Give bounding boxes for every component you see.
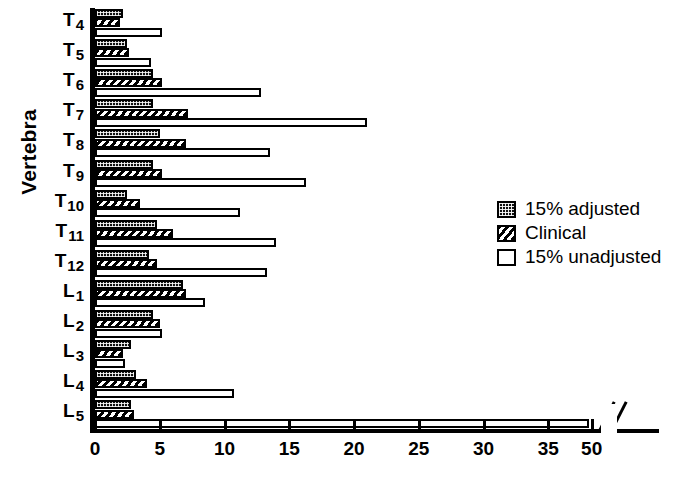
x-axis-tick (353, 419, 356, 430)
bar-t11-adjusted (95, 220, 157, 229)
bar-group-t5 (95, 38, 659, 68)
x-axis-tick-label: 35 (528, 438, 568, 460)
bar-t7-clinical (95, 109, 188, 118)
bar-l5-clinical (95, 410, 134, 419)
legend: 15% adjusted Clinical 15% unadjusted (497, 197, 661, 269)
x-axis-tick (483, 419, 486, 430)
bar-t10-unadjusted (95, 208, 240, 217)
bar-t5-clinical (95, 48, 129, 57)
y-axis-label-t9: T9 (24, 160, 84, 184)
bar-t4-adjusted (95, 9, 123, 18)
bar-group-l1 (95, 279, 659, 309)
y-axis-label-t5: T5 (24, 39, 84, 63)
x-axis-tick-label: 20 (334, 438, 374, 460)
legend-swatch-unadjusted-icon (497, 249, 516, 266)
bar-group-t9 (95, 159, 659, 189)
bar-l1-clinical (95, 289, 186, 298)
y-axis-label-t11: T11 (24, 220, 84, 244)
bar-chart: Vertebra T4T5T6T7T8T9T10T11T12L1L2L3L4L5… (0, 0, 695, 481)
bar-l4-clinical (95, 379, 147, 388)
bar-t9-adjusted (95, 160, 153, 169)
bar-t6-unadjusted (95, 88, 261, 97)
x-axis-tick-label: 5 (140, 438, 180, 460)
bar-t9-unadjusted (95, 178, 306, 187)
bar-t12-unadjusted (95, 268, 267, 277)
bar-group-l4 (95, 369, 659, 399)
x-axis-tick (418, 419, 421, 430)
bar-group-t6 (95, 68, 659, 98)
axis-break-mask (601, 404, 617, 434)
x-axis-tick-label: 0 (75, 438, 115, 460)
bar-l2-unadjusted (95, 329, 162, 338)
bar-t11-clinical (95, 229, 173, 238)
bar-group-l5 (95, 399, 659, 429)
bar-l3-unadjusted (95, 359, 125, 368)
x-axis-tick (94, 419, 97, 430)
bar-group-t4 (95, 8, 659, 38)
bar-t12-clinical (95, 259, 157, 268)
bar-group-t8 (95, 128, 659, 158)
bar-t9-clinical (95, 169, 162, 178)
bar-t12-adjusted (95, 250, 149, 259)
bar-t8-clinical (95, 139, 186, 148)
x-axis-tick-label: 50 (572, 438, 612, 460)
bar-t8-unadjusted (95, 148, 270, 157)
bar-l4-unadjusted (95, 389, 234, 398)
y-axis-label-t7: T7 (24, 99, 84, 123)
y-axis-category-labels: T4T5T6T7T8T9T10T11T12L1L2L3L4L5 (22, 0, 84, 430)
bar-t6-adjusted (95, 69, 153, 78)
bar-l1-unadjusted (95, 298, 205, 307)
x-axis-tick (547, 419, 550, 430)
bar-t10-adjusted (95, 190, 127, 199)
bar-l2-adjusted (95, 310, 153, 319)
y-axis-label-l3: L3 (24, 340, 84, 364)
bar-t6-clinical (95, 78, 162, 87)
bar-t11-unadjusted (95, 238, 276, 247)
bar-l5-unadjusted (95, 419, 589, 428)
bar-l3-clinical (95, 349, 123, 358)
bar-l5-adjusted (95, 400, 131, 409)
bar-t7-unadjusted (95, 118, 367, 127)
x-axis-tick (159, 419, 162, 430)
bar-t5-adjusted (95, 39, 127, 48)
y-axis-label-t6: T6 (24, 69, 84, 93)
y-axis-label-l1: L1 (24, 280, 84, 304)
x-axis-tick (224, 419, 227, 430)
y-axis-label-t8: T8 (24, 129, 84, 153)
bar-l1-adjusted (95, 280, 183, 289)
legend-swatch-adjusted-icon (497, 201, 516, 218)
y-axis-label-t10: T10 (24, 190, 84, 214)
y-axis-label-l4: L4 (24, 370, 84, 394)
bar-group-l3 (95, 339, 659, 369)
y-axis-label-l2: L2 (24, 310, 84, 334)
legend-label-clinical: Clinical (525, 222, 586, 244)
bar-group-l2 (95, 309, 659, 339)
legend-swatch-clinical-icon (497, 225, 516, 242)
bar-t4-unadjusted (95, 28, 162, 37)
bar-l2-clinical (95, 319, 160, 328)
bar-l3-adjusted (95, 340, 131, 349)
bar-t4-clinical (95, 18, 120, 27)
y-axis-label-l5: L5 (24, 400, 84, 424)
legend-label-adjusted: 15% adjusted (525, 198, 640, 220)
legend-item-clinical: Clinical (497, 221, 661, 245)
legend-item-unadjusted: 15% unadjusted (497, 245, 661, 269)
bar-group-t7 (95, 98, 659, 128)
x-axis-tick-label: 10 (205, 438, 245, 460)
x-axis-tick (591, 419, 594, 430)
bar-t10-clinical (95, 199, 140, 208)
x-axis-tick-label: 30 (464, 438, 504, 460)
x-axis-tick-label: 15 (269, 438, 309, 460)
bar-t8-adjusted (95, 129, 160, 138)
legend-label-unadjusted: 15% unadjusted (525, 246, 661, 268)
x-axis-tick-label: 25 (399, 438, 439, 460)
x-axis-tick (288, 419, 291, 430)
bar-t7-adjusted (95, 99, 153, 108)
legend-item-adjusted: 15% adjusted (497, 197, 661, 221)
y-axis-label-t4: T4 (24, 9, 84, 33)
y-axis-label-t12: T12 (24, 250, 84, 274)
bar-l4-adjusted (95, 370, 136, 379)
bar-t5-unadjusted (95, 58, 151, 67)
